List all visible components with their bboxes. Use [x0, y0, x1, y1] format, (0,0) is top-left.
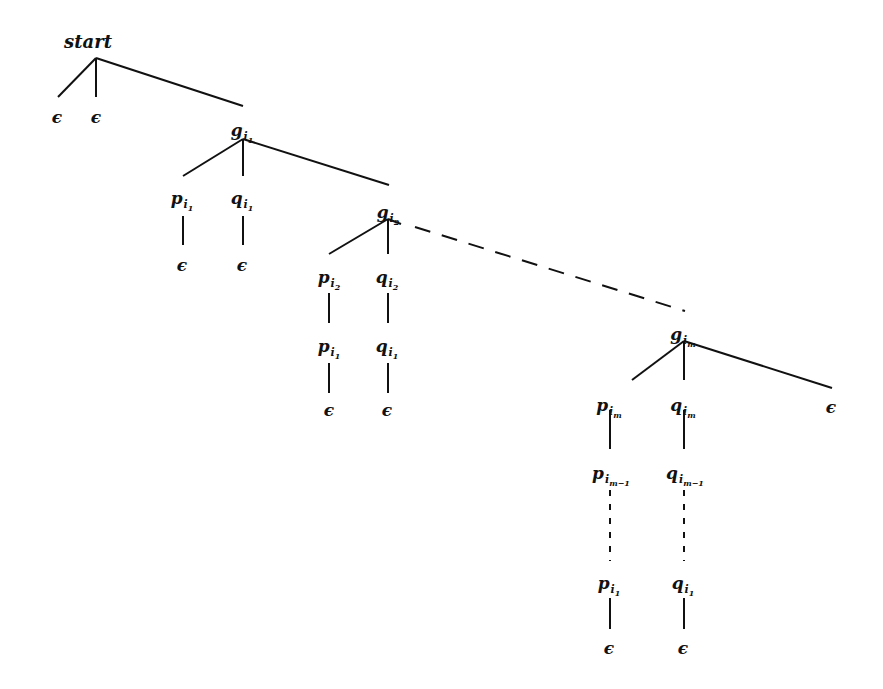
node-subscript: i1 — [244, 130, 254, 143]
node-subscript: im — [609, 405, 622, 418]
tree-node-q1a: qi1 — [231, 190, 254, 207]
node-sub-subscript: 1 — [248, 203, 254, 213]
node-symbol: q — [672, 573, 684, 593]
node-sub-subscript: 2 — [394, 217, 400, 227]
node-sub-subscript: 1 — [615, 588, 621, 598]
node-symbol: ϵ — [52, 107, 62, 127]
node-subscript: i1 — [611, 583, 621, 596]
tree-edge-solid — [632, 341, 684, 380]
node-subscript: i1 — [244, 198, 254, 211]
node-symbol: ϵ — [237, 255, 247, 275]
node-symbol: q — [670, 395, 682, 415]
node-sub-subscript: 1 — [335, 351, 341, 361]
node-sub-subscript: m−1 — [683, 478, 704, 488]
tree-node-qm: qim — [670, 397, 696, 414]
tree-node-p1b: pi1 — [318, 338, 341, 355]
tree-node-pm1: pim−1 — [592, 465, 630, 482]
epsilon-leaf-node: ϵ — [604, 640, 614, 657]
node-symbol: q — [666, 463, 678, 483]
node-symbol: ϵ — [324, 400, 334, 420]
tree-node-p2: pi2 — [318, 269, 341, 286]
node-symbol: ϵ — [826, 397, 836, 417]
tree-edge-solid — [58, 58, 96, 97]
node-symbol: ϵ — [91, 107, 101, 127]
node-sub-subscript: 1 — [393, 351, 399, 361]
tree-edge-solid — [329, 219, 388, 254]
node-sub-subscript: m — [613, 410, 621, 420]
node-sub-subscript: 2 — [393, 282, 399, 292]
tree-node-q1c: qi1 — [672, 575, 695, 592]
node-sub-subscript: m — [687, 410, 695, 420]
node-subscript: im−1 — [605, 473, 630, 486]
node-subscript: i2 — [389, 277, 399, 290]
node-symbol: q — [231, 188, 243, 208]
epsilon-leaf-node: ϵ — [177, 257, 187, 274]
tree-node-gm: gim — [670, 326, 696, 343]
node-symbol: p — [318, 336, 330, 356]
node-sub-subscript: 2 — [335, 282, 341, 292]
tree-node-g2: gi2 — [377, 204, 400, 221]
node-symbol: p — [598, 573, 610, 593]
tree-edges — [0, 0, 883, 689]
node-symbol: p — [596, 395, 608, 415]
tree-node-p1a: pi1 — [171, 190, 194, 207]
tree-node-start: start — [64, 33, 112, 51]
epsilon-leaf-node: ϵ — [382, 402, 392, 419]
node-sub-subscript: m — [687, 339, 695, 349]
epsilon-leaf-node: ϵ — [678, 640, 688, 657]
node-symbol: ϵ — [604, 638, 614, 658]
tree-edge-solid — [183, 139, 243, 176]
node-subscript: i2 — [390, 212, 400, 225]
node-sub-subscript: 1 — [248, 135, 254, 145]
tree-node-g1: gi1 — [231, 122, 254, 139]
node-subscript: i1 — [389, 346, 399, 359]
tree-node-p1c: pi1 — [598, 575, 621, 592]
node-sub-subscript: 1 — [689, 588, 695, 598]
derivation-tree-diagram: startϵϵgi1pi1qi1ϵϵgi2pi2qi2pi1qi1ϵϵgimpi… — [0, 0, 883, 689]
node-symbol: q — [376, 336, 388, 356]
tree-node-pm: pim — [596, 397, 622, 414]
node-subscript: im — [683, 334, 696, 347]
node-symbol: g — [670, 324, 682, 344]
epsilon-leaf-node: ϵ — [52, 109, 62, 126]
node-subscript: i1 — [184, 198, 194, 211]
node-subscript: im — [683, 405, 696, 418]
epsilon-leaf-node: ϵ — [237, 257, 247, 274]
epsilon-leaf-node: ϵ — [826, 399, 836, 416]
node-symbol: p — [318, 267, 330, 287]
tree-edge-dashed — [415, 227, 685, 311]
node-symbol: g — [377, 202, 389, 222]
node-symbol: p — [592, 463, 604, 483]
tree-edge-solid — [243, 139, 389, 185]
node-subscript: i1 — [331, 346, 341, 359]
epsilon-leaf-node: ϵ — [91, 109, 101, 126]
node-symbol: p — [171, 188, 183, 208]
node-sub-subscript: m−1 — [609, 478, 630, 488]
node-symbol: ϵ — [177, 255, 187, 275]
tree-edge-solid — [684, 341, 832, 388]
tree-edge-solid — [96, 58, 243, 106]
node-symbol: ϵ — [678, 638, 688, 658]
node-subscript: i2 — [331, 277, 341, 290]
tree-node-q2: qi2 — [376, 269, 399, 286]
tree-node-qm1: qim−1 — [666, 465, 704, 482]
epsilon-leaf-node: ϵ — [324, 402, 334, 419]
node-symbol: start — [64, 31, 112, 52]
node-symbol: ϵ — [382, 400, 392, 420]
node-sub-subscript: 1 — [188, 203, 194, 213]
node-symbol: g — [231, 120, 243, 140]
node-subscript: im−1 — [679, 473, 704, 486]
tree-node-q1b: qi1 — [376, 338, 399, 355]
node-symbol: q — [376, 267, 388, 287]
node-subscript: i1 — [685, 583, 695, 596]
